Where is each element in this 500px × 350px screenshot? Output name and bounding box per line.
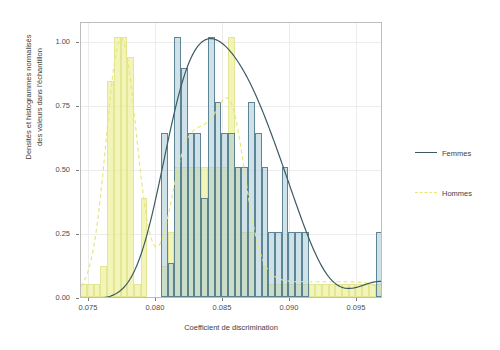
density-curve-femmes [81,23,382,298]
x-tick-mark [222,298,223,301]
y-tick-mark [76,234,79,235]
figure-root: Densités et histogrammes normalisés des … [0,0,500,350]
y-tick-mark [76,170,79,171]
y-tick-mark [76,298,79,299]
legend: Femmes Hommes [415,140,495,206]
density-line [81,39,382,298]
legend-label-femmes: Femmes [442,149,471,158]
plot-panel [80,22,382,298]
x-tick-mark [289,298,290,301]
x-tick-label-4: 0.090 [264,303,314,312]
y-tick-label-4: 0.25 [30,230,70,238]
y-tick-mark [76,42,79,43]
y-tick-mark [76,106,79,107]
y-tick-label-2: 0.75 [30,102,70,110]
y-tick-label-3: 0.50 [30,166,70,174]
legend-item-femmes[interactable]: Femmes [415,140,495,166]
x-tick-mark [155,298,156,301]
legend-line-dashed-icon [415,188,437,198]
x-tick-mark [356,298,357,301]
y-tick-label-5: 0.00 [30,294,70,302]
x-tick-label-5: 0.095 [331,303,381,312]
legend-item-hommes[interactable]: Hommes [415,180,495,206]
legend-label-hommes: Hommes [442,189,472,198]
x-tick-label-3: 0.085 [197,303,247,312]
x-tick-mark [88,298,89,301]
y-tick-label-1: 1.00 [30,38,70,46]
x-tick-label-2: 0.080 [130,303,180,312]
x-tick-label-1: 0.075 [63,303,113,312]
legend-line-solid-icon [415,148,437,158]
x-axis-label: Coefficient de discrimination [80,323,382,332]
